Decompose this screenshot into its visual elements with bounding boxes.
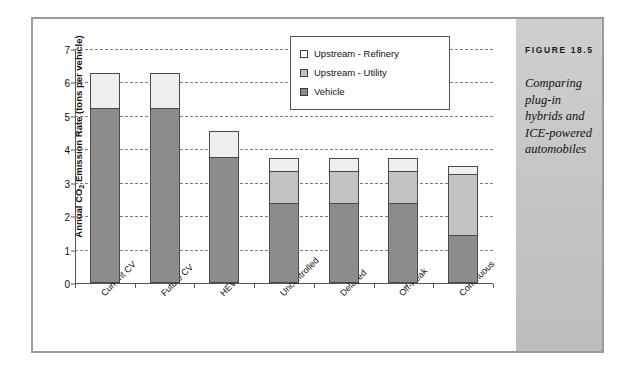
- x-tick-mark-1: [135, 284, 136, 288]
- y-tick-label-1: 1: [64, 245, 70, 256]
- figure-frame: Annual CO2 Emission Rate (tons per vehic…: [31, 17, 604, 353]
- bar-segment-utility: [448, 174, 478, 234]
- bar-segment-vehicle: [209, 157, 239, 283]
- y-tick-label-3: 3: [64, 178, 70, 189]
- bar-segment-refinery: [209, 131, 239, 157]
- x-tick-mark-3: [254, 284, 255, 288]
- bar-segment-vehicle: [150, 108, 180, 284]
- figure-number: FIGURE 18.5: [525, 45, 594, 55]
- y-tick-label-6: 6: [64, 78, 70, 89]
- x-tick-mark-0: [75, 284, 76, 288]
- chart-legend: Upstream - Refinery Upstream - Utility V…: [290, 36, 450, 110]
- x-tick-mark-2: [194, 284, 195, 288]
- legend-item-vehicle: Vehicle: [300, 82, 440, 101]
- y-tick-label-7: 7: [64, 45, 70, 56]
- figure-caption-text: Comparing plug-in hybrids and ICE-powere…: [525, 75, 599, 158]
- bar-future-cv: [150, 73, 180, 283]
- bar-segment-utility: [388, 171, 418, 203]
- bar-segment-refinery: [90, 73, 120, 107]
- bar-segment-refinery: [388, 158, 418, 171]
- bar-segment-vehicle: [329, 203, 359, 283]
- bar-continuous: [448, 166, 478, 283]
- bar-hev: [209, 131, 239, 283]
- bar-segment-refinery: [448, 166, 478, 174]
- legend-label-vehicle: Vehicle: [314, 86, 345, 97]
- bar-segment-utility: [269, 171, 299, 203]
- bar-delayed: [329, 158, 359, 283]
- legend-swatch-upstream-refinery: [300, 50, 308, 58]
- chart-area: Annual CO2 Emission Rate (tons per vehic…: [33, 19, 520, 351]
- y-tick-label-5: 5: [64, 111, 70, 122]
- bar-segment-vehicle: [388, 203, 418, 283]
- x-tick-mark-7: [493, 284, 494, 288]
- y-tick-label-4: 4: [64, 145, 70, 156]
- bar-segment-refinery: [150, 73, 180, 107]
- x-tick-mark-4: [314, 284, 315, 288]
- bar-segment-refinery: [269, 158, 299, 171]
- x-tick-mark-5: [374, 284, 375, 288]
- legend-swatch-upstream-utility: [300, 69, 308, 77]
- y-tick-label-2: 2: [64, 212, 70, 223]
- legend-label-upstream-refinery: Upstream - Refinery: [314, 48, 399, 59]
- bar-off-peak: [388, 158, 418, 283]
- y-tick-label-0: 0: [64, 279, 70, 290]
- x-tick-mark-6: [433, 284, 434, 288]
- legend-item-upstream-utility: Upstream - Utility: [300, 63, 440, 82]
- bar-segment-vehicle: [448, 235, 478, 283]
- bar-segment-refinery: [329, 158, 359, 171]
- bar-uncontrolled: [269, 158, 299, 283]
- bar-segment-vehicle: [269, 203, 299, 283]
- figure-caption-panel: FIGURE 18.5 Comparing plug-in hybrids an…: [516, 19, 602, 351]
- bar-segment-utility: [329, 171, 359, 203]
- figure-page: Annual CO2 Emission Rate (tons per vehic…: [0, 0, 635, 369]
- bar-segment-vehicle: [90, 108, 120, 284]
- legend-swatch-vehicle: [300, 88, 308, 96]
- legend-label-upstream-utility: Upstream - Utility: [314, 67, 387, 78]
- legend-item-upstream-refinery: Upstream - Refinery: [300, 44, 440, 63]
- bar-current-cv: [90, 73, 120, 283]
